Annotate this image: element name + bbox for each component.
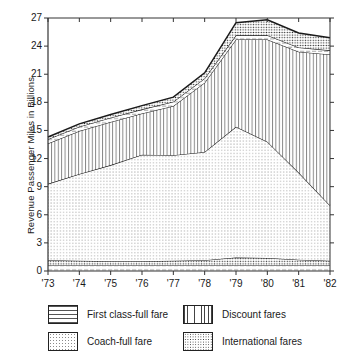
- revenue-passenger-miles-chart: Revenue Passenger Miles in Billions 2724…: [0, 0, 361, 356]
- discount-swatch: [183, 305, 213, 324]
- legend-label-coach: Coach-full fare: [87, 336, 152, 347]
- legend-item-coach: Coach-full fare: [48, 332, 152, 351]
- legend-label-first-class: First class-full fare: [87, 309, 168, 320]
- coach-swatch: [48, 332, 78, 351]
- legend-label-international: International fares: [222, 336, 302, 347]
- legend-item-international: International fares: [183, 332, 302, 351]
- stacked-area-plot: [0, 0, 361, 356]
- legend-item-discount: Discount fares: [183, 305, 286, 324]
- legend-label-discount: Discount fares: [222, 309, 286, 320]
- area-band-1: [48, 265, 330, 271]
- legend-item-first-class: First class-full fare: [48, 305, 168, 324]
- international-swatch: [183, 332, 213, 351]
- first-class-swatch: [48, 305, 78, 324]
